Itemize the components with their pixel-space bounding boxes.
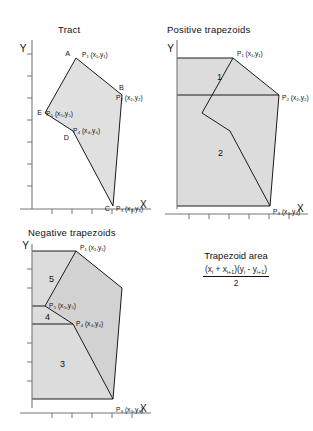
formula-numerator: (xi + xi+1)(yi - yi+1) — [203, 264, 269, 277]
panel-negative-title: Negative trapezoids — [28, 227, 116, 238]
panel-negative-trapezoids: Negative trapezoids — [0, 222, 156, 431]
positive-region-label-2: 2 — [218, 148, 223, 158]
negative-point-label-p1: P₁ (x₁,y₁) — [80, 244, 106, 252]
panel-tract: Tract — [0, 18, 156, 230]
positive-y-axis-label: Y — [167, 43, 174, 54]
negative-region-label-3: 3 — [60, 359, 65, 369]
tract-vertex-letter-e: E — [37, 108, 42, 117]
formula-sub-i-plus-1-b: i+1 — [257, 269, 264, 275]
negative-point-label-p5: P₅ (x₅,y₅) — [49, 302, 76, 310]
positive-trapezoids-diagram: Y X 1 2 P₁ (x₁,y₁) P₂ (x₂,y₂) P₃ (x₃,y₃) — [157, 18, 313, 230]
positive-point-label-p3: P₃ (x₃,y₃) — [273, 208, 300, 216]
trapezoid-area-formula: (xi + xi+1)(yi - yi+1) 2 — [203, 264, 269, 290]
panel-tract-title: Tract — [58, 24, 80, 35]
formula-num-close: ) — [264, 264, 267, 274]
formula-num-open: (x — [205, 264, 212, 274]
formula-sub-i-1: i — [212, 269, 213, 275]
positive-point-label-p2: P₂ (x₂,y₂) — [282, 94, 309, 102]
tract-diagram: Y X A B C D E P₁ (x₁,y₁) P₂ (x₂,y₂) P₃ (… — [0, 18, 156, 230]
positive-region-2-fill — [177, 95, 279, 206]
tract-point-label-p1: P₁ (x₁,y₁) — [82, 51, 108, 59]
tract-vertex-letter-c: C — [105, 204, 110, 213]
y-axis-ticks — [27, 269, 32, 381]
figure-root: Tract — [0, 0, 313, 431]
negative-point-label-p4: P₄ (x₄,y₄) — [76, 320, 103, 328]
panel-positive-trapezoids: Positive trapezoids Y X — [157, 18, 313, 230]
tract-vertex-letter-a: A — [65, 49, 70, 58]
y-axis-ticks — [27, 54, 32, 186]
formula-num-plus: + x — [213, 264, 227, 274]
panel-positive-title: Positive trapezoids — [167, 24, 251, 35]
formula-num-close-open: )(y — [234, 264, 244, 274]
negative-region-label-5: 5 — [49, 274, 54, 284]
formula-denominator: 2 — [203, 277, 269, 289]
formula-title: Trapezoid area — [176, 250, 296, 261]
formula-sub-i-plus-1-a: i+1 — [227, 269, 234, 275]
tract-point-label-p4: P₄ (x₄,y₄) — [73, 127, 100, 135]
formula-num-minus: - y — [245, 264, 257, 274]
panel-formula: Trapezoid area (xi + xi+1)(yi - yi+1) 2 — [176, 250, 296, 290]
tract-vertex-letter-d: D — [64, 133, 69, 142]
x-axis-ticks — [52, 413, 132, 418]
negative-y-axis-label: Y — [22, 240, 29, 251]
tract-point-label-p3: P₃ (x₃,y₃) — [116, 205, 143, 213]
negative-point-label-p3: P₃ (x₃,y₃) — [116, 406, 143, 414]
tract-vertex-letter-b: B — [119, 83, 124, 92]
tract-point-label-p5: P₅ (x₅,y₅) — [46, 110, 73, 118]
negative-region-label-4: 4 — [45, 312, 50, 322]
tract-point-label-p2: P₂ (x₂,y₂) — [116, 94, 143, 102]
tract-y-axis-label: Y — [20, 43, 27, 54]
positive-point-label-p1: P₁ (x₁,y₁) — [237, 50, 263, 58]
positive-region-1-fill — [177, 58, 279, 95]
positive-region-label-1: 1 — [217, 72, 222, 82]
negative-trapezoids-diagram: Y X 5 4 3 P₁ (x₁,y₁) P₅ (x₅,y₅) P₄ (x₄,y… — [0, 222, 156, 431]
